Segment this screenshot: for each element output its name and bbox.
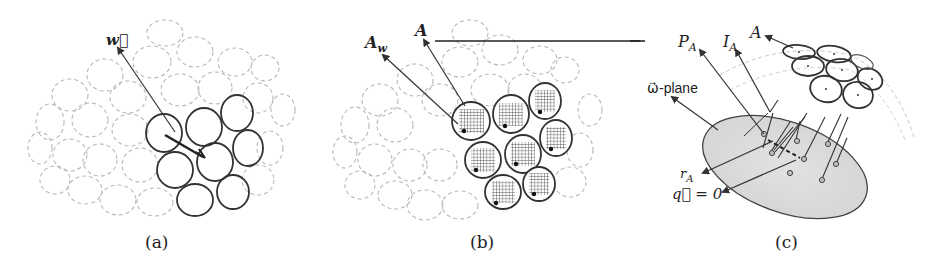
label-a: A	[413, 21, 427, 40]
a-arrow-c	[766, 36, 793, 48]
w-vector-arrow	[118, 48, 175, 132]
caption-b: (b)	[470, 232, 494, 252]
hatched-cell	[523, 167, 555, 201]
label-pa: PA	[677, 32, 697, 54]
label-a-c: A	[748, 23, 762, 42]
hatched-cell	[485, 175, 521, 209]
omega-plane	[689, 95, 881, 238]
hatched-cell	[540, 120, 572, 156]
panel-b: Aw A (b)	[333, 20, 640, 252]
figure-canvas: w⃗ (a)	[0, 0, 945, 272]
hatched-cell	[452, 102, 490, 140]
caption-c: (c)	[775, 232, 798, 252]
caption-a: (a)	[145, 232, 168, 252]
label-omega-plane: ω⃗-plane	[647, 80, 698, 96]
a-arrow	[424, 40, 465, 106]
label-ra: rA	[680, 166, 693, 184]
aw-arrow	[383, 55, 458, 124]
panel-a: w⃗ (a)	[28, 20, 295, 252]
label-w: w⃗	[106, 31, 128, 49]
upper-cluster	[782, 43, 886, 111]
panel-c: PA IA A ω⃗-plane rA q⃗ = 0 (c)	[630, 23, 915, 252]
label-aw: Aw	[363, 33, 387, 55]
hatched-cell	[529, 83, 561, 119]
dashed-ellipse-cloud	[28, 20, 295, 216]
hatched-cell	[493, 95, 529, 133]
label-ia: IA	[722, 32, 737, 54]
hatched-cell	[465, 142, 501, 178]
label-q-zero: q⃗ = 0	[672, 185, 723, 203]
hatched-cluster	[452, 83, 572, 209]
omega-plane-arrow	[672, 97, 718, 130]
